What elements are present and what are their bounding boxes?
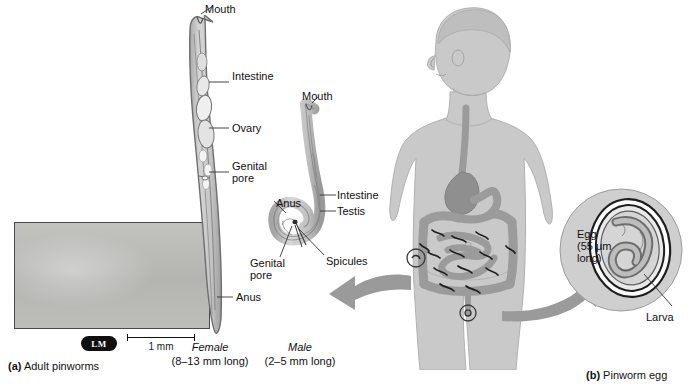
egg-label-larva: Larva bbox=[646, 311, 674, 323]
lm-badge: LM bbox=[81, 336, 117, 351]
caption-panel-b: (b) Pinworm egg bbox=[586, 369, 667, 382]
male-size: (2–5 mm long) bbox=[255, 355, 345, 367]
male-label-anus: Anus bbox=[276, 197, 301, 209]
caption-b-text: Pinworm egg bbox=[603, 369, 667, 381]
female-title: Female bbox=[170, 341, 250, 353]
male-label-mouth: Mouth bbox=[302, 90, 333, 102]
caption-panel-a: (a) Adult pinworms bbox=[8, 360, 99, 373]
egg-label: Egg (55 μm long) bbox=[577, 228, 611, 264]
caption-a-marker: (a) bbox=[8, 360, 21, 372]
caption-b-marker: (b) bbox=[586, 369, 600, 381]
female-label-ovary: Ovary bbox=[232, 122, 261, 134]
female-label-intestine: Intestine bbox=[232, 70, 274, 82]
male-title: Male bbox=[265, 341, 335, 353]
female-label-anus: Anus bbox=[236, 291, 261, 303]
male-label-intestine: Intestine bbox=[337, 189, 379, 201]
caption-a-text: Adult pinworms bbox=[24, 360, 99, 372]
figure-pinworms: LM 1 mm (a) Adult pinworms bbox=[0, 0, 690, 387]
female-label-mouth: Mouth bbox=[205, 3, 236, 15]
arrow-to-worms bbox=[325, 262, 415, 322]
male-label-testis: Testis bbox=[337, 205, 365, 217]
pinworm-egg-diagram bbox=[556, 188, 686, 318]
male-label-genital-pore: Genital pore bbox=[250, 257, 285, 281]
female-size: (8–13 mm long) bbox=[160, 355, 260, 367]
